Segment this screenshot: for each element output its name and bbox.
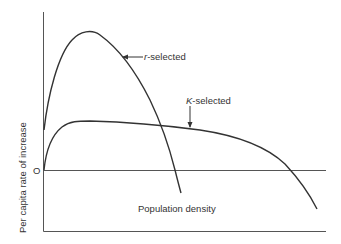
zero-label: O — [33, 165, 40, 176]
K-selected-label: K-selected — [186, 95, 231, 106]
K-selected-arrowhead-icon — [188, 122, 193, 128]
r-selected-label: r-selected — [144, 51, 186, 62]
K-selected-curve — [44, 121, 317, 209]
chart: Per capita rate of increase O r-selected… — [0, 0, 341, 244]
x-axis-label: Population density — [138, 203, 216, 214]
y-axis-label: Per capita rate of increase — [17, 122, 28, 233]
